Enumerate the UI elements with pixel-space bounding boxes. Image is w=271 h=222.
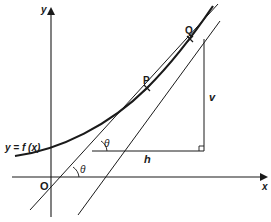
x-axis-label: x: [261, 181, 268, 192]
curve-fx: [15, 6, 213, 156]
tangent-line: [78, 21, 220, 215]
angle-arc-lower: [73, 167, 79, 177]
theta-label-upper: θ: [104, 138, 110, 149]
gradient-diagram: y x O y = f (x) P Q h v θ θ: [0, 0, 271, 222]
curve-label: y = f (x): [4, 142, 41, 153]
point-p-label: P: [143, 75, 150, 86]
origin-label: O: [40, 180, 49, 192]
h-label: h: [144, 153, 151, 165]
right-angle-marker: [199, 146, 204, 151]
point-q-label: Q: [185, 25, 193, 36]
y-axis-label: y: [40, 4, 47, 15]
v-label: v: [209, 91, 216, 103]
theta-label-lower: θ: [80, 164, 86, 175]
